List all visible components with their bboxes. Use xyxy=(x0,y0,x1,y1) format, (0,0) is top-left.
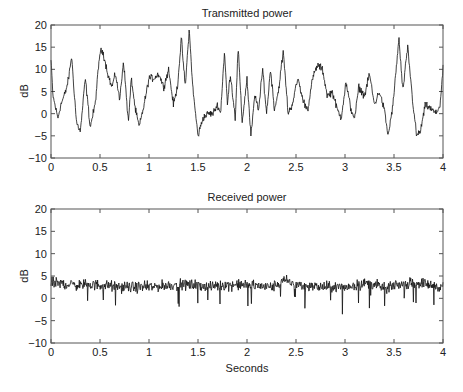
received-power-line xyxy=(51,275,443,314)
y-tick-label: 5 xyxy=(41,270,47,282)
received-x-axis-label: Seconds xyxy=(226,362,269,374)
y-tick-label: 10 xyxy=(35,248,47,260)
x-tick-label: 4 xyxy=(440,161,446,173)
received-power-panel: Received power dB Seconds 00.511.522.533… xyxy=(18,191,446,374)
y-tick-label: 15 xyxy=(35,225,47,237)
y-tick-label: 5 xyxy=(41,86,47,98)
transmitted-ticks: 00.511.522.533.54−10−505101520 xyxy=(28,19,446,173)
received-power-title: Received power xyxy=(208,191,287,203)
x-tick-label: 3 xyxy=(342,346,348,358)
received-y-axis-label: dB xyxy=(18,269,30,282)
x-tick-label: 2.5 xyxy=(288,346,303,358)
x-tick-label: 0.5 xyxy=(92,346,107,358)
y-tick-label: −10 xyxy=(28,337,47,349)
x-tick-label: 1 xyxy=(146,161,152,173)
x-tick-label: 0 xyxy=(48,161,54,173)
x-tick-label: 0.5 xyxy=(92,161,107,173)
x-tick-label: 2 xyxy=(244,346,250,358)
x-tick-label: 3.5 xyxy=(386,161,401,173)
transmitted-plot-frame xyxy=(51,25,443,158)
x-tick-label: 1.5 xyxy=(190,346,205,358)
y-tick-label: −10 xyxy=(28,152,47,164)
y-tick-label: 0 xyxy=(41,292,47,304)
y-tick-label: −5 xyxy=(34,315,47,327)
y-tick-label: 10 xyxy=(35,63,47,75)
x-tick-label: 3.5 xyxy=(386,346,401,358)
transmitted-power-line xyxy=(51,30,443,136)
x-tick-label: 2 xyxy=(244,161,250,173)
y-tick-label: −5 xyxy=(34,130,47,142)
y-tick-label: 20 xyxy=(35,203,47,215)
transmitted-power-title: Transmitted power xyxy=(202,7,293,19)
x-tick-label: 1 xyxy=(146,346,152,358)
x-tick-label: 3 xyxy=(342,161,348,173)
x-tick-label: 0 xyxy=(48,346,54,358)
received-plot-frame xyxy=(51,209,443,343)
transmitted-y-axis-label: dB xyxy=(18,84,30,97)
x-tick-label: 2.5 xyxy=(288,161,303,173)
y-tick-label: 15 xyxy=(35,41,47,53)
y-tick-label: 0 xyxy=(41,108,47,120)
y-tick-label: 20 xyxy=(35,19,47,31)
x-tick-label: 4 xyxy=(440,346,446,358)
figure: Transmitted power dB 00.511.522.533.54−1… xyxy=(0,0,463,392)
x-tick-label: 1.5 xyxy=(190,161,205,173)
transmitted-power-panel: Transmitted power dB 00.511.522.533.54−1… xyxy=(18,7,446,173)
